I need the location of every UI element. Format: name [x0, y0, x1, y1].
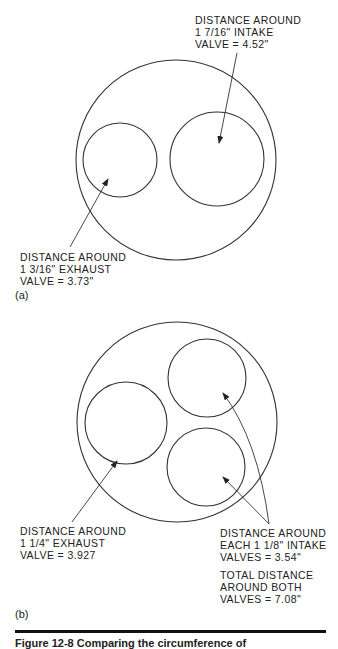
- intake-label-b: DISTANCE AROUND EACH 1 1/8" INTAKE VALVE…: [220, 527, 326, 563]
- intake-valve-a: [170, 112, 264, 206]
- label-line: VALVE = 3.73": [20, 275, 126, 287]
- label-line: AROUND BOTH: [220, 581, 313, 593]
- intake-arrow-a: [219, 53, 237, 143]
- intake-arrow-b-top: [223, 393, 269, 524]
- exhaust-label-b: DISTANCE AROUND 1 1/4" EXHAUST VALVE = 3…: [20, 525, 126, 561]
- label-line: TOTAL DISTANCE: [220, 569, 313, 581]
- label-line: DISTANCE AROUND: [195, 14, 301, 26]
- intake-valve-b-top: [168, 339, 246, 417]
- label-line: 1 3/16" EXHAUST: [20, 263, 126, 275]
- cylinder-bore-b: [77, 322, 277, 522]
- intake-label-a: DISTANCE AROUND 1 7/16" INTAKE VALVE = 4…: [195, 14, 301, 50]
- label-line: 1 1/4" EXHAUST: [20, 537, 126, 549]
- label-line: DISTANCE AROUND: [20, 525, 126, 537]
- label-line: VALVE = 3.927: [20, 549, 126, 561]
- exhaust-arrow-a: [70, 179, 108, 247]
- figure-caption: Figure 12-8 Comparing the circumference …: [15, 637, 246, 649]
- cylinder-bore-a: [76, 60, 276, 260]
- label-line: VALVES = 7.08": [220, 593, 313, 605]
- total-label-b: TOTAL DISTANCE AROUND BOTH VALVES = 7.08…: [220, 569, 313, 605]
- exhaust-arrow-b: [72, 461, 117, 522]
- panel-tag-a: (a): [15, 289, 28, 301]
- panel-tag-b: (b): [15, 608, 28, 620]
- label-line: DISTANCE AROUND: [220, 527, 326, 539]
- caption-rule: [15, 630, 326, 633]
- exhaust-label-a: DISTANCE AROUND 1 3/16" EXHAUST VALVE = …: [20, 251, 126, 287]
- exhaust-valve-b: [85, 382, 167, 464]
- label-line: EACH 1 1/8" INTAKE: [220, 539, 326, 551]
- label-line: 1 7/16" INTAKE: [195, 26, 301, 38]
- label-line: VALVE = 4.52": [195, 38, 301, 50]
- intake-valve-b-bottom: [167, 428, 245, 506]
- label-line: VALVES = 3.54": [220, 551, 326, 563]
- exhaust-valve-a: [83, 123, 157, 197]
- label-line: DISTANCE AROUND: [20, 251, 126, 263]
